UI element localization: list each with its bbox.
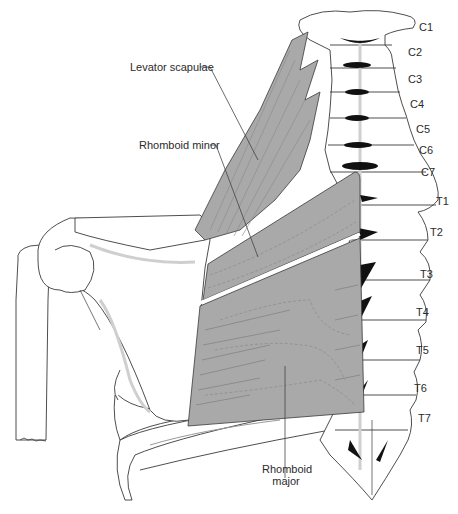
label-rhomboid-major-line2: major (262, 475, 310, 487)
anatomy-illustration (0, 0, 458, 514)
vertebra-label-c1: C1 (419, 21, 433, 33)
vertebra-label-c6: C6 (419, 144, 433, 156)
vertebra-label-t2: T2 (430, 226, 443, 238)
vertebra-label-t1: T1 (436, 195, 449, 207)
vertebra-label-t3: T3 (420, 268, 433, 280)
vertebra-label-t7: T7 (418, 412, 431, 424)
label-levator-scapulae: Levator scapulae (130, 61, 214, 73)
anatomy-figure: Levator scapulae Rhomboid minor Rhomboid… (0, 0, 458, 514)
vertebra-label-t5: T5 (416, 344, 429, 356)
vertebra-label-c4: C4 (410, 98, 424, 110)
vertebra-label-c5: C5 (416, 123, 430, 135)
vertebra-label-c7: C7 (421, 166, 435, 178)
vertebra-label-c2: C2 (408, 46, 422, 58)
label-rhomboid-major-line1: Rhomboid (262, 463, 310, 475)
label-rhomboid-major: Rhomboid major (262, 463, 310, 487)
vertebra-label-t4: T4 (416, 306, 429, 318)
vertebra-label-c3: C3 (408, 73, 422, 85)
label-rhomboid-minor: Rhomboid minor (139, 139, 220, 151)
vertebra-label-t6: T6 (414, 382, 427, 394)
scapula (38, 215, 210, 421)
